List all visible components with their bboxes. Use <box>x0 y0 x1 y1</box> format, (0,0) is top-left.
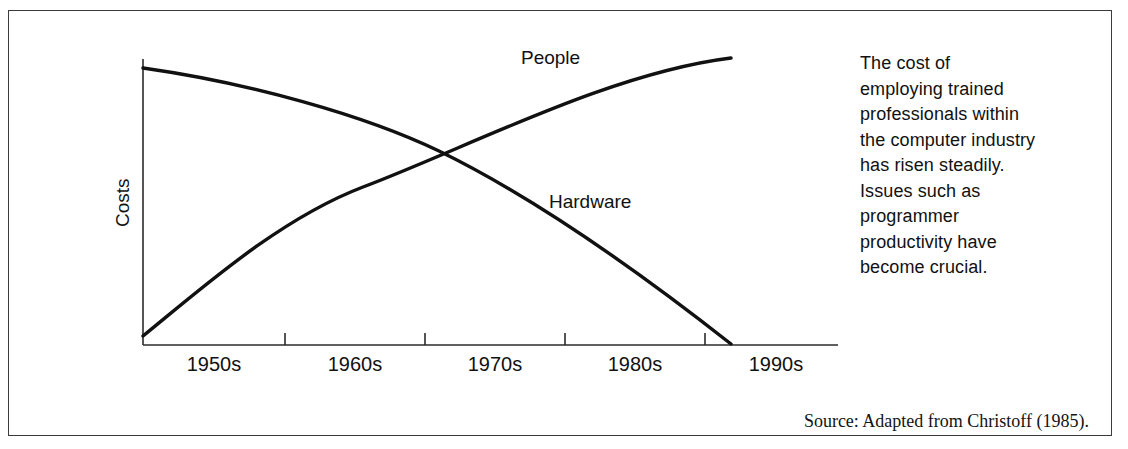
chart-svg: People Hardware Costs 1950s 1960s 1970s … <box>109 37 849 397</box>
figure-frame: People Hardware Costs 1950s 1960s 1970s … <box>8 10 1112 436</box>
hardware-curve <box>143 68 731 344</box>
people-series-label: People <box>521 47 580 68</box>
source-note: Source: Adapted from Christoff (1985). <box>9 411 1089 432</box>
people-curve <box>143 58 731 336</box>
x-tick-label-1970s: 1970s <box>468 353 523 375</box>
x-tick-label-1950s: 1950s <box>187 353 242 375</box>
hardware-series-label: Hardware <box>549 191 631 212</box>
line-chart: People Hardware Costs 1950s 1960s 1970s … <box>109 37 849 397</box>
x-tick-label-1990s: 1990s <box>749 353 804 375</box>
figure-caption: The cost of employing trained profession… <box>860 51 1038 281</box>
figure-page: People Hardware Costs 1950s 1960s 1970s … <box>0 0 1128 449</box>
y-axis-title: Costs <box>112 178 133 227</box>
x-tick-label-1960s: 1960s <box>328 353 383 375</box>
x-tick-label-1980s: 1980s <box>608 353 663 375</box>
